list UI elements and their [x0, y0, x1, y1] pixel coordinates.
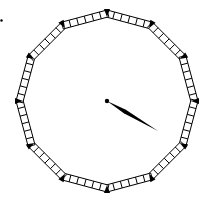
hand-pivot: [105, 99, 109, 103]
ladder-segment: [105, 10, 152, 29]
ladder-segment: [16, 56, 35, 103]
ladder-segment: [62, 10, 109, 29]
clock-face-svg: [0, 0, 207, 208]
ladder-segment: [179, 99, 198, 146]
ladder-segment: [148, 22, 186, 60]
hand-needle: [107, 101, 158, 131]
corner-dot: [0, 19, 2, 21]
ladder-segment: [28, 142, 66, 180]
clock-diagram: Dodecagon ladder clock face: [0, 0, 207, 208]
ladder-segment: [105, 173, 152, 192]
ladder-segment: [28, 22, 66, 60]
ladder-segment: [148, 142, 186, 180]
ladder-segment: [16, 99, 35, 146]
ladder-segment: [179, 56, 198, 103]
ladder-segment: [62, 173, 109, 192]
clock-hand: [105, 99, 158, 131]
